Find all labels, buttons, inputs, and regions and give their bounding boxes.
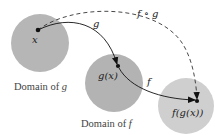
label-gx: g(x) — [98, 70, 118, 81]
caption-domain-g: Domain of g — [14, 81, 67, 92]
range-region — [158, 78, 214, 134]
composition-diagram: x g(x) f(g(x)) g f f ∘ g Domain of g Dom… — [0, 0, 215, 135]
caption-domain-f: Domain of f — [81, 118, 134, 129]
caption-domain-f-var: f — [129, 118, 134, 129]
label-fgx: f(g(x)) — [171, 107, 203, 118]
point-x — [36, 28, 41, 33]
caption-domain-g-prefix: Domain of — [14, 81, 62, 92]
domain-f-region — [85, 54, 143, 112]
point-fgx — [195, 99, 199, 103]
caption-domain-f-prefix: Domain of — [81, 118, 129, 129]
point-gx — [116, 64, 120, 68]
label-arrow-fog: f ∘ g — [136, 8, 158, 19]
label-arrow-f: f — [146, 76, 153, 87]
caption-domain-g-var: g — [62, 81, 67, 92]
label-x: x — [32, 34, 38, 45]
label-arrow-g: g — [93, 18, 99, 29]
